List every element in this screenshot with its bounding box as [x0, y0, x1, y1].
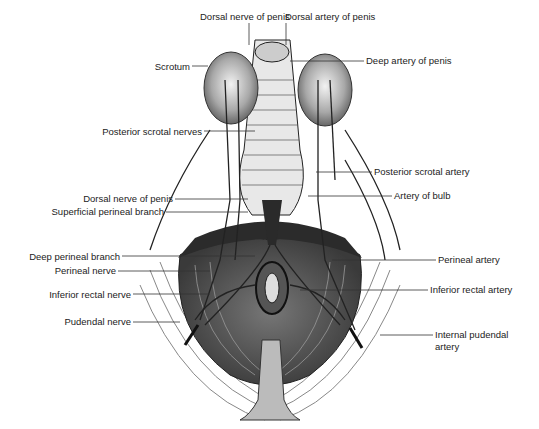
label-pudendal-nerve: Pudendal nerve: [20, 316, 131, 327]
label-scrotum: Scrotum: [130, 61, 190, 72]
label-dorsal-artery-of-penis: Dorsal artery of penis: [285, 11, 375, 22]
label-inferior-rectal-artery: Inferior rectal artery: [430, 284, 512, 295]
label-posterior-scrotal-artery: Posterior scrotal artery: [374, 166, 470, 177]
label-deep-artery-of-penis: Deep artery of penis: [366, 55, 452, 66]
label-posterior-scrotal-nerves: Posterior scrotal nerves: [60, 126, 202, 137]
label-perineal-nerve: Perineal nerve: [10, 265, 116, 276]
label-dorsal-nerve-of-penis-top: Dorsal nerve of penis: [200, 11, 290, 22]
label-perineal-artery: Perineal artery: [438, 254, 500, 265]
label-artery-of-bulb: Artery of bulb: [394, 190, 451, 201]
label-internal-pudendal-artery-line2: artery: [435, 341, 459, 352]
label-inferior-rectal-nerve: Inferior rectal nerve: [10, 289, 131, 300]
anatomical-illustration: Dorsal nerve of penis Dorsal artery of p…: [0, 0, 539, 429]
label-superficial-perineal-branch: Superficial perineal branch: [20, 206, 164, 217]
label-deep-perineal-branch: Deep perineal branch: [0, 251, 120, 262]
scrotum-left: [204, 52, 258, 124]
label-dorsal-nerve-of-penis-lower: Dorsal nerve of penis: [40, 193, 173, 204]
scrotum-right: [298, 54, 352, 126]
label-internal-pudendal-artery: Internal pudendal: [435, 329, 508, 340]
